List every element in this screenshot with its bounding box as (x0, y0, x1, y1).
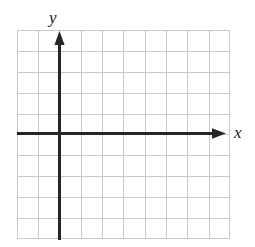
y-axis-label: y (49, 9, 57, 26)
x-axis-label: x (234, 124, 242, 141)
coordinate-plane-figure: y x (0, 0, 255, 247)
coordinate-grid-svg (0, 0, 255, 247)
